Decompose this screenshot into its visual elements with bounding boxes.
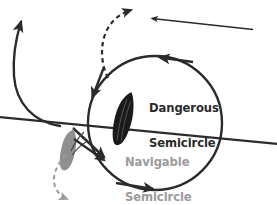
rotation-arrow-top [160,58,193,63]
cyclone-semicircle-diagram: Dangerous Semicircle Navigable Semicircl… [0,0,277,205]
label-navigable-line2: Semicircle [125,192,192,204]
escape-track-dark-solid [14,22,60,126]
label-navigable-semicircle: Navigable Semicircle [125,133,192,205]
wind-arrow-top [152,19,253,30]
label-dangerous-line1: Dangerous [149,103,219,115]
label-navigable-line1: Navigable [125,157,192,169]
